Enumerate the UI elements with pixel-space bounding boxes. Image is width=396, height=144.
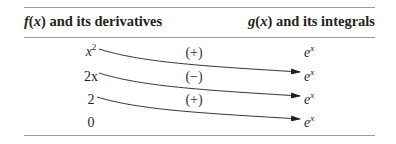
arrow-row-1: [99, 49, 300, 72]
arrow-row-3: [97, 97, 300, 119]
bottom-rule: [24, 135, 375, 136]
tabular-arrows: [0, 0, 396, 144]
arrow-row-2: [99, 73, 300, 96]
